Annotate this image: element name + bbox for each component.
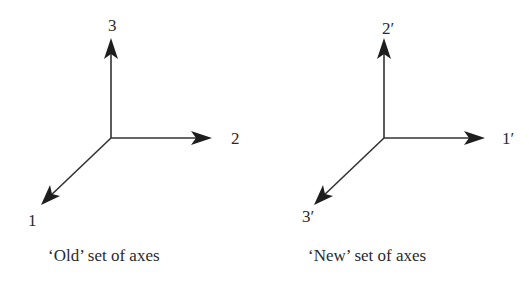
old-axis-2 xyxy=(111,131,212,145)
old-axis-1-label: 1 xyxy=(28,211,37,230)
old-axis-2-label: 2 xyxy=(231,129,240,148)
old-axes-caption: ‘Old’ set of axes xyxy=(48,246,160,265)
axes-diagram: 3 2 1 ‘Old’ set of axes 2′ 1′ 3′ ‘New’ s… xyxy=(0,0,529,281)
new-axis-1prime-label: 1′ xyxy=(502,129,514,148)
new-axis-3prime-label: 3′ xyxy=(302,207,314,226)
old-axis-1 xyxy=(41,138,111,205)
old-axis-3-label: 3 xyxy=(108,16,117,35)
new-axis-1prime xyxy=(384,131,485,145)
arrowhead-down-left-icon xyxy=(314,185,333,205)
new-axis-3prime xyxy=(314,138,384,205)
new-axis-2prime-label: 2′ xyxy=(382,19,394,38)
old-axes-panel: 3 2 1 ‘Old’ set of axes xyxy=(28,16,240,265)
new-axis-2prime xyxy=(377,38,391,138)
new-axes-panel: 2′ 1′ 3′ ‘New’ set of axes xyxy=(302,19,514,265)
old-axis-3 xyxy=(104,38,118,138)
arrowhead-down-left-icon xyxy=(41,185,60,205)
new-axes-caption: ‘New’ set of axes xyxy=(308,246,426,265)
